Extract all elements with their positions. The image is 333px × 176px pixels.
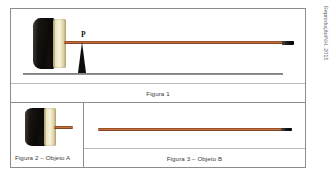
panel-figura-2: Figura 2 – Objeto A	[11, 103, 84, 167]
image-credit: Reprodução/NH, 2015	[318, 6, 332, 102]
broom-handle-tip-figura-1	[282, 41, 294, 45]
caption-figura-2: Figura 2 – Objeto A	[11, 148, 83, 167]
panel-figura-3: Figura 3 – Objeto B	[84, 103, 305, 167]
broom-handle-figura-3	[98, 128, 283, 131]
ground-line	[23, 73, 283, 75]
broom-handle-tip-figura-3	[281, 128, 292, 132]
figura-1-artwork: P	[11, 9, 305, 83]
fulcrum-triangle-icon	[78, 42, 86, 73]
caption-figura-1: Figura 1	[11, 83, 305, 102]
broom-head-figura-1	[33, 18, 66, 69]
broom-head-figura-2	[25, 108, 56, 146]
point-p-label: P	[81, 31, 86, 39]
broom-handle-stub-figura-2	[54, 126, 73, 129]
caption-figura-3: Figura 3 – Objeto B	[84, 148, 305, 167]
figure-stage: P Figura 1 Figura 2 – Objeto A	[0, 0, 333, 176]
broom-bristles-icon	[25, 108, 45, 146]
broom-bristles-icon	[33, 18, 54, 69]
figure-frame: P Figura 1 Figura 2 – Objeto A	[10, 8, 306, 168]
broom-handle-figura-1	[64, 41, 284, 44]
panel-figura-1: P Figura 1	[11, 9, 305, 103]
panel-bottom-row: Figura 2 – Objeto A Figura 3 – Objeto B	[11, 103, 305, 167]
image-credit-text: Reprodução/NH, 2015	[323, 6, 329, 60]
